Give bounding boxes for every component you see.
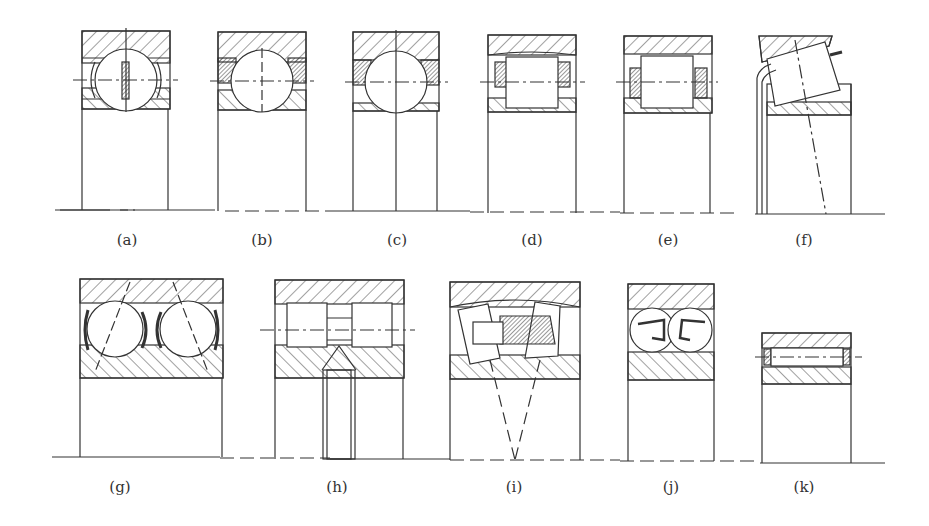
panel-d bbox=[480, 35, 585, 213]
label-k: (k) bbox=[794, 478, 815, 496]
label-h: (h) bbox=[326, 478, 347, 496]
panel-k bbox=[755, 333, 862, 463]
label-j: (j) bbox=[663, 478, 679, 496]
label-c: (c) bbox=[387, 231, 407, 249]
label-d: (d) bbox=[521, 231, 542, 249]
panel-j bbox=[628, 284, 714, 461]
panel-c bbox=[345, 30, 448, 211]
panel-g bbox=[80, 279, 223, 457]
label-a: (a) bbox=[117, 231, 138, 249]
label-e: (e) bbox=[658, 231, 679, 249]
panel-i bbox=[450, 282, 580, 460]
panel-h bbox=[260, 280, 415, 459]
bearing-diagram bbox=[0, 0, 929, 526]
panel-b bbox=[210, 32, 314, 211]
label-b: (b) bbox=[251, 231, 272, 249]
baseline-top bbox=[55, 210, 885, 214]
panel-a bbox=[73, 28, 178, 210]
baseline-bottom bbox=[52, 457, 885, 463]
label-f: (f) bbox=[795, 231, 812, 249]
label-g: (g) bbox=[109, 478, 130, 496]
panel-e bbox=[616, 36, 718, 213]
panel-f bbox=[757, 36, 851, 214]
label-i: (i) bbox=[506, 478, 523, 496]
